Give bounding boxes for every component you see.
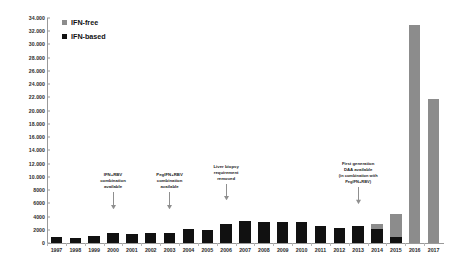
bar-1997[interactable] [51,237,62,243]
x-axis-label-2016: 2016 [405,247,424,253]
bar-segment-ifn-free [390,214,401,237]
bar-2006[interactable] [220,224,231,243]
bar-2013[interactable] [352,226,363,243]
bar-segment-ifn-based [296,222,307,244]
bar-2014[interactable] [371,224,382,243]
x-axis-tick-mark [236,243,237,246]
bar-2001[interactable] [126,234,137,243]
annotation-arrow-icon [166,192,173,209]
x-axis-label-2001: 2001 [122,247,141,253]
bar-segment-ifn-based [352,226,363,243]
bar-2016[interactable] [409,25,420,243]
bar-segment-ifn-based [315,226,326,243]
y-axis-tick-label: 22.000 [29,94,45,100]
x-axis-label-1997: 1997 [47,247,66,253]
y-axis-tick-label: 14.000 [29,147,45,153]
y-axis-tick-label: 8000 [33,187,45,193]
bar-2009[interactable] [277,222,288,244]
annotation-first-gen-daa: First generationDAA available(in combina… [318,161,398,185]
x-axis-label-2007: 2007 [236,247,255,253]
y-axis-tick-label: 20.000 [29,108,45,114]
y-axis-tick-label: 6000 [33,200,45,206]
y-axis-tick-label: 30.000 [29,41,45,47]
bar-segment-ifn-based [277,222,288,244]
bar-2002[interactable] [145,233,156,243]
bar-2015[interactable] [390,214,401,243]
bar-2012[interactable] [334,228,345,243]
bar-2000[interactable] [107,233,118,243]
x-axis-label-1998: 1998 [66,247,85,253]
x-axis-label-2012: 2012 [330,247,349,253]
y-axis-tick-label: 34.000 [29,15,45,21]
y-axis-tick-label: 0 [42,240,45,246]
x-axis-label-2004: 2004 [179,247,198,253]
x-axis-tick-mark [368,243,369,246]
bar-2008[interactable] [258,222,269,244]
y-axis-tick-label: 2000 [33,227,45,233]
x-axis-tick-mark [217,243,218,246]
bar-2004[interactable] [183,229,194,243]
x-axis-tick-mark [386,243,387,246]
bar-segment-ifn-based [51,237,62,243]
x-axis-tick-mark [104,243,105,246]
bar-segment-ifn-based [164,233,175,243]
x-axis-label-2011: 2011 [311,247,330,253]
bar-2010[interactable] [296,222,307,244]
bar-2007[interactable] [239,221,250,243]
bar-segment-ifn-based [126,234,137,243]
annotation-arrow-icon [223,184,230,200]
x-axis-tick-mark [141,243,142,246]
x-axis-tick-mark [292,243,293,246]
y-axis-tick-label: 12.000 [29,161,45,167]
y-axis-tick-label: 18.000 [29,121,45,127]
bar-2005[interactable] [202,230,213,243]
bar-segment-ifn-based [258,222,269,244]
x-axis-label-2000: 2000 [104,247,123,253]
bar-segment-ifn-based [390,237,401,243]
annotation-line: available [130,184,210,190]
plot-area [47,18,443,243]
annotation-arrow-icon [110,192,117,209]
bar-chart: 34.00032.00030.00028.00026.00024.00022.0… [0,0,449,267]
bar-1999[interactable] [88,236,99,243]
annotation-line: removed [186,176,266,182]
x-axis-label-2008: 2008 [254,247,273,253]
bar-segment-ifn-based [70,238,81,243]
bar-segment-ifn-free [428,99,439,243]
bar-2017[interactable] [428,99,439,243]
bar-segment-ifn-based [183,229,194,243]
y-axis-tick-label: 10.000 [29,174,45,180]
x-axis-label-2013: 2013 [349,247,368,253]
y-axis-tick-label: 32.000 [29,28,45,34]
bar-segment-ifn-based [107,233,118,243]
x-axis-tick-mark [424,243,425,246]
annotation-arrow-icon [355,187,362,204]
bar-segment-ifn-based [239,221,250,243]
y-axis-tick-label: 16.000 [29,134,45,140]
x-axis-label-2014: 2014 [368,247,387,253]
bar-2011[interactable] [315,226,326,243]
x-axis-tick-mark [47,243,48,246]
x-axis-label-2002: 2002 [141,247,160,253]
x-axis-label-2005: 2005 [198,247,217,253]
x-axis-label-2010: 2010 [292,247,311,253]
annotation-line: PegIFN+RBV) [318,179,398,185]
x-axis-tick-mark [160,243,161,246]
x-axis-tick-mark [273,243,274,246]
x-axis-tick-mark [198,243,199,246]
bar-segment-ifn-free [409,25,420,243]
x-axis-tick-mark [349,243,350,246]
y-axis-tick-label: 4000 [33,214,45,220]
x-axis-line [47,243,444,244]
bar-1998[interactable] [70,238,81,243]
y-axis-tick-label: 24.000 [29,81,45,87]
x-axis-label-1999: 1999 [85,247,104,253]
annotation-liver-biopsy: Liver biopsyrequirementremoved [186,164,266,183]
x-axis-tick-mark [66,243,67,246]
x-axis-label-2017: 2017 [424,247,443,253]
x-axis-tick-mark [405,243,406,246]
x-axis-label-2003: 2003 [160,247,179,253]
bar-2003[interactable] [164,233,175,243]
bar-segment-ifn-based [145,233,156,243]
x-axis-label-2015: 2015 [386,247,405,253]
